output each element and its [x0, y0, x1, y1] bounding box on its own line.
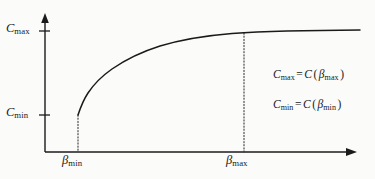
axis-label-betamax: βmax: [226, 153, 248, 168]
annotation-max-lhs-symbol: C: [273, 68, 281, 80]
figure-canvas: [0, 0, 375, 179]
annotation-min-lhs-subscript: min: [281, 103, 294, 112]
annotation-min-close-paren: ): [336, 98, 343, 110]
annotation-cmin-definition: Cmin=C(βmin): [273, 98, 343, 112]
annotation-min-lhs-symbol: C: [273, 98, 281, 110]
cmin-subscript: min: [14, 110, 28, 120]
annotation-min-rhs-arg-subscript: min: [323, 103, 336, 112]
annotation-min-equals: =: [294, 98, 304, 110]
horizontal-axis-arrowhead: [346, 148, 357, 156]
axis-label-cmin: Cmin: [6, 105, 28, 120]
annotation-max-lhs-subscript: max: [281, 73, 295, 82]
annotation-max-rhs-arg-subscript: max: [325, 73, 339, 82]
annotation-cmax-definition: Cmax=C(βmax): [273, 68, 346, 82]
axis-label-cmax: Cmax: [6, 21, 30, 36]
annotation-max-open-paren: (: [312, 68, 319, 80]
saturating-curve-figure: Cmax Cmin βmin βmax Cmax=C(βmax) Cmin=C(…: [0, 0, 375, 179]
vertical-axis-arrowhead: [41, 13, 49, 23]
annotation-max-rhs-function: C: [304, 68, 312, 80]
betamax-subscript: max: [232, 158, 247, 168]
annotation-max-close-paren: ): [339, 68, 346, 80]
betamin-subscript: min: [68, 158, 82, 168]
annotation-max-equals: =: [295, 68, 305, 80]
annotation-min-open-paren: (: [311, 98, 318, 110]
cmax-subscript: max: [14, 26, 29, 36]
annotation-min-rhs-function: C: [303, 98, 311, 110]
axis-label-betamin: βmin: [62, 153, 82, 168]
